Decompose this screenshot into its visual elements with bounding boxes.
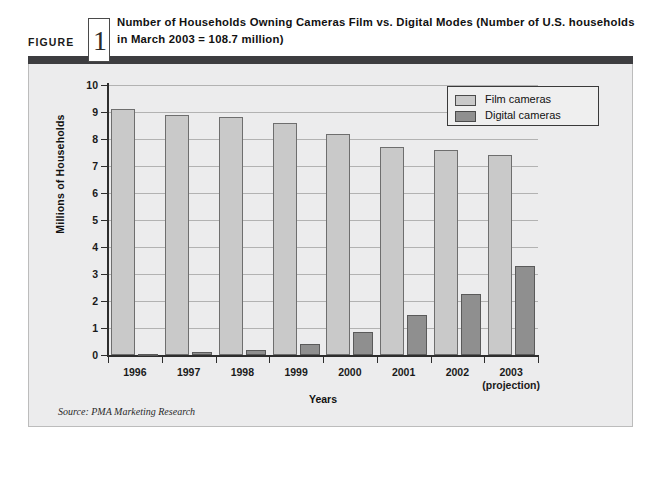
bar-film-2002: [434, 150, 458, 355]
y-axis-line: [107, 83, 109, 357]
y-axis-tick: [101, 166, 107, 167]
y-axis-tick-label: 8: [72, 133, 98, 145]
y-axis-tick-label: 4: [72, 241, 98, 253]
y-axis-tick: [101, 247, 107, 248]
x-axis-title: Years: [108, 393, 538, 405]
source-note: Source: PMA Marketing Research: [58, 406, 195, 417]
x-axis-tick: [108, 357, 109, 363]
y-axis-tick-label: 10: [72, 79, 98, 91]
bar-digital-2002: [461, 294, 481, 355]
y-axis-tick-label: 7: [72, 160, 98, 172]
x-axis-tick: [484, 357, 485, 363]
bar-film-2003: [488, 155, 512, 355]
bar-digital-1997: [192, 352, 212, 355]
legend-swatch-digital: [455, 111, 476, 122]
bar-film-1998: [219, 117, 243, 355]
figure-header: FIGURE 1 Number of Households Owning Cam…: [0, 0, 661, 62]
figure-label: FIGURE: [28, 36, 74, 48]
legend-label-film: Film cameras: [485, 93, 551, 105]
x-axis-tick-label-2003: 2003(projection): [476, 366, 546, 392]
bar-film-2001: [380, 147, 404, 355]
y-axis-tick-label: 2: [72, 295, 98, 307]
bar-film-1999: [273, 123, 297, 355]
bar-film-1996: [111, 109, 135, 355]
x-axis-tick-label-text: 1996: [123, 366, 146, 378]
bar-digital-2000: [353, 332, 373, 355]
figure-number-box: 1: [88, 18, 110, 62]
x-axis-tick-sublabel: (projection): [476, 379, 546, 392]
x-axis-tick: [162, 357, 163, 363]
figure-title: Number of Households Owning Cameras Film…: [117, 14, 635, 47]
y-axis-tick: [101, 274, 107, 275]
x-axis-tick: [538, 357, 539, 363]
chart-legend: Film cameras Digital cameras: [447, 86, 599, 126]
x-axis-tick: [431, 357, 432, 363]
bar-digital-1998: [246, 350, 266, 355]
bar-film-2000: [326, 134, 350, 355]
header-rule-divider: [28, 56, 633, 64]
y-axis-title: Millions of Households: [54, 94, 66, 254]
x-axis-tick-label-text: 1997: [177, 366, 200, 378]
y-axis-tick-label: 9: [72, 106, 98, 118]
bar-digital-1996: [138, 354, 158, 356]
x-axis-tick-label-text: 1999: [284, 366, 307, 378]
y-axis-tick-label: 0: [72, 349, 98, 361]
y-axis-tick-label: 1: [72, 322, 98, 334]
y-axis-tick: [101, 139, 107, 140]
y-axis-tick-label: 3: [72, 268, 98, 280]
x-axis-tick-label-text: 1998: [231, 366, 254, 378]
y-axis-tick-label: 5: [72, 214, 98, 226]
y-axis-tick: [101, 301, 107, 302]
x-axis-tick-label-text: 2003: [499, 366, 522, 378]
y-axis-tick: [101, 328, 107, 329]
legend-label-digital: Digital cameras: [485, 109, 561, 121]
bar-digital-2003: [515, 266, 535, 355]
x-axis-tick: [323, 357, 324, 363]
x-axis-tick-label-text: 2000: [338, 366, 361, 378]
x-axis-tick: [269, 357, 270, 363]
y-axis-tick: [101, 85, 107, 86]
y-axis-tick: [101, 355, 107, 356]
bar-digital-1999: [300, 344, 320, 355]
figure-number: 1: [89, 19, 111, 63]
y-axis-tick: [101, 193, 107, 194]
x-axis-tick-label-text: 2002: [446, 366, 469, 378]
y-axis-tick: [101, 112, 107, 113]
y-axis-tick: [101, 220, 107, 221]
y-axis-tick-label: 6: [72, 187, 98, 199]
bar-digital-2001: [407, 315, 427, 356]
x-axis-tick: [216, 357, 217, 363]
x-axis-tick-label-text: 2001: [392, 366, 415, 378]
legend-swatch-film: [455, 95, 476, 106]
bar-film-1997: [165, 115, 189, 355]
x-axis-tick: [377, 357, 378, 363]
